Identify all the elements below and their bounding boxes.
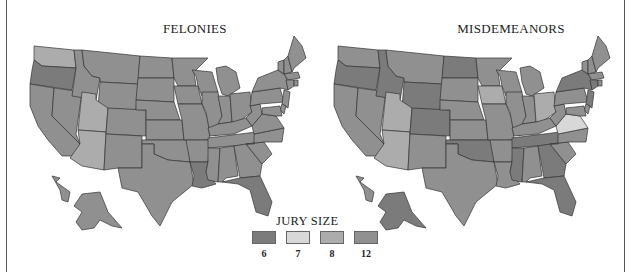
misdemeanors-state-fl	[526, 176, 576, 216]
felonies-state-ks	[146, 120, 184, 140]
misdemeanors-state-ri	[598, 80, 602, 86]
felonies-state-fl	[222, 176, 272, 216]
felonies-state-nm	[104, 134, 142, 170]
misdemeanors-state-co	[410, 108, 450, 136]
felonies-state-ia	[174, 86, 202, 104]
misdemeanors-states-group	[334, 36, 610, 230]
misdemeanors-state-sd	[440, 78, 478, 102]
misdemeanors-state-me	[592, 36, 610, 72]
legend-label-12: 12	[354, 248, 378, 259]
misdemeanors-state-ar	[490, 140, 514, 162]
misdemeanors-state-ia	[478, 86, 506, 104]
felonies-state-hi	[52, 176, 70, 202]
misdemeanors-state-ak	[378, 192, 426, 230]
legend-label-7: 7	[286, 248, 310, 259]
felonies-state-md	[262, 106, 282, 116]
misdemeanors-state-hi	[356, 176, 374, 202]
felonies-state-me	[288, 36, 306, 72]
legend-swatch-7	[286, 231, 310, 244]
felonies-state-mi	[216, 66, 240, 96]
legend-label-6: 6	[252, 248, 276, 259]
felonies-state-ar	[186, 140, 210, 162]
legend-swatch-6	[252, 231, 276, 244]
misdemeanors-state-ks	[450, 120, 488, 140]
felonies-state-ak	[74, 192, 122, 230]
felonies-state-co	[106, 108, 146, 136]
felonies-state-ms	[206, 148, 220, 182]
legend-swatch-12	[354, 231, 378, 244]
felonies-state-nd	[138, 56, 174, 78]
misdemeanors-state-nd	[442, 56, 478, 78]
misdemeanors-state-md	[566, 106, 586, 116]
legend-title: JURY SIZE	[276, 214, 338, 229]
misdemeanors-state-nm	[408, 134, 446, 170]
misdemeanors-state-mi	[520, 66, 544, 96]
felonies-state-ri	[294, 80, 298, 86]
misdemeanors-state-ms	[510, 148, 524, 182]
legend-label-8: 8	[320, 248, 344, 259]
felonies-state-sd	[136, 78, 174, 102]
felonies-states-group	[30, 36, 306, 230]
legend-swatch-8	[320, 231, 344, 244]
